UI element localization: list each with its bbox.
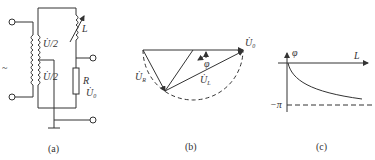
input-terminal-bottom (9, 94, 15, 100)
resistor (73, 68, 79, 94)
upper-winding-label: U̇/2 (43, 38, 58, 49)
phase-curve-plot (278, 53, 372, 112)
median-line (165, 50, 193, 91)
caption-c: (c) (316, 141, 327, 153)
phasor-ul (165, 51, 243, 91)
ul-label: U̇L (200, 74, 211, 86)
phasor-diagram (143, 50, 243, 100)
asymptote-label: −π (270, 99, 283, 110)
phase-curve (288, 63, 362, 99)
output-terminal-top (90, 55, 96, 61)
lower-winding-label: U̇/2 (43, 71, 58, 82)
u0-label: U̇0 (245, 37, 255, 49)
phasor-ur (143, 50, 165, 91)
figure: U̇/2 U̇/2 L R U̇0 ~ (a) U̇0 U̇R U̇L φ (b… (0, 0, 375, 160)
output-label: U̇0 (86, 87, 96, 99)
phi-label: φ (204, 58, 210, 69)
y-axis-label: φ (292, 47, 298, 58)
caption-b: (b) (185, 141, 197, 153)
input-terminal-top (9, 19, 15, 25)
input-mark: ~ (2, 62, 8, 73)
primary-winding (31, 35, 33, 85)
caption-a: (a) (48, 143, 59, 155)
output-terminal-bottom (90, 117, 96, 123)
x-axis-label: L (353, 50, 360, 61)
resistor-label: R (82, 75, 89, 86)
locus-arc (143, 50, 243, 100)
ur-label: U̇R (135, 71, 146, 83)
inductor-label: L (81, 23, 88, 34)
